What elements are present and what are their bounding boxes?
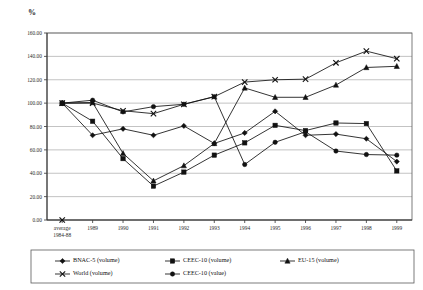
data-point-marker [364,48,369,53]
data-point-marker [212,94,216,98]
y-tick-label: 160.00 [27,30,42,36]
x-tick-label: 1992 [178,225,189,231]
legend-item-eu-15-volume[interactable]: EU-15 (volume) [280,256,339,264]
legend-label: CEEC-10 (volume) [183,256,231,264]
data-point-marker [182,102,186,106]
series-line [62,97,397,165]
y-tick-label: 80.00 [30,124,42,130]
data-point-marker [151,133,156,138]
data-point-marker [120,151,125,156]
legend-item-world-volume[interactable]: World (volume) [55,269,113,277]
data-point-marker [151,104,155,108]
x-tick-label: 1991 [148,225,159,231]
legend-item-bnac-5-volume[interactable]: BNAC-5 (volume) [55,256,120,264]
y-tick-label: 0.00 [33,217,43,223]
legend-label: World (volume) [73,269,113,277]
y-axis-ticks: 0.0020.0040.0060.0080.00100.00120.00140.… [27,30,47,223]
gridlines-group [47,33,412,220]
x-tick-label: 1994 [239,225,250,231]
x-tick-label: 1989 [87,225,98,231]
data-point-marker [170,272,174,276]
data-point-marker [181,123,186,128]
x-tick-label: 1998 [361,225,372,231]
x-axis-ticks: average1984-8819891990199119921993199419… [53,220,402,238]
x-tick-label: 1990 [118,225,129,231]
legend-label: EU-15 (volume) [298,256,339,264]
legend-border [31,250,414,283]
data-point-marker [303,130,307,134]
data-point-marker [243,141,247,145]
data-point-marker [394,56,399,61]
data-point-marker [212,153,216,157]
legend-label: CEEC-10 (value) [183,269,226,277]
legend-item-ceec-10-value[interactable]: CEEC-10 (value) [165,269,226,277]
y-tick-label: 100.00 [27,100,42,106]
legend-item-ceec-10-volume[interactable]: CEEC-10 (volume) [165,256,231,264]
data-point-marker [333,82,338,87]
y-tick-label: 140.00 [27,53,42,59]
data-point-marker [60,101,64,105]
data-point-marker [181,163,186,168]
chart-legend: BNAC-5 (volume)CEEC-10 (volume)EU-15 (vo… [31,250,414,283]
x-tick-label: 1999 [391,225,402,231]
x-tick-label: average [54,225,71,231]
series-world-volume [60,48,400,116]
x-tick-label: 1996 [300,225,311,231]
chart-root: % 0.0020.0040.0060.0080.00100.00120.0014… [0,0,423,290]
series-ceec-10-value [60,94,399,166]
data-point-marker [242,130,247,135]
data-point-marker [182,170,186,174]
y-tick-label: 20.00 [30,194,42,200]
data-point-marker [364,152,368,156]
x-tick-label: 1995 [270,225,281,231]
data-point-marker [242,85,247,90]
series-ceec-10-volume [60,101,399,188]
y-tick-label: 60.00 [30,147,42,153]
x-tick-label: 1997 [331,225,342,231]
data-point-marker [333,60,338,65]
data-point-marker [395,169,399,173]
data-point-marker [243,162,247,166]
y-tick-label: 120.00 [27,77,42,83]
data-point-marker [364,121,368,125]
data-point-marker [170,259,174,263]
y-tick-label: 40.00 [30,170,42,176]
legend-label: BNAC-5 (volume) [73,256,120,264]
data-point-marker [151,184,155,188]
data-point-marker [334,121,338,125]
line-chart-svg: 0.0020.0040.0060.0080.00100.00120.00140.… [0,0,423,290]
x-tick-label: 1993 [209,225,220,231]
data-point-marker [334,149,338,153]
x-tick-label: 1984-88 [53,232,71,238]
data-point-marker [395,153,399,157]
data-point-marker [121,156,125,160]
series-line [62,51,397,114]
data-point-marker [273,123,277,127]
data-point-marker [60,258,65,263]
data-point-marker [273,140,277,144]
data-point-marker [90,98,94,102]
data-point-marker [120,126,125,131]
series-line [62,103,397,161]
data-point-marker [333,131,338,136]
data-point-marker [121,110,125,114]
chart-canvas: 0.0020.0040.0060.0080.00100.00120.00140.… [0,0,423,290]
data-point-marker [90,119,94,123]
